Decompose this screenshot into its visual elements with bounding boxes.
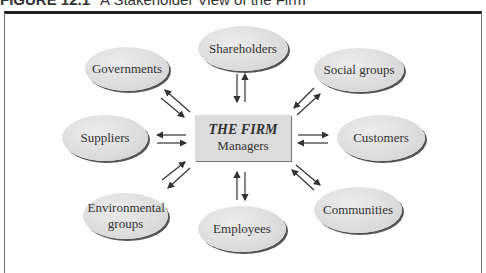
node-label: Environmental groups <box>88 200 164 231</box>
center-firm-box: THE FIRM Managers <box>195 115 291 161</box>
node-environmental-groups: Environmental groups <box>83 193 168 239</box>
node-label: Employees <box>213 221 271 237</box>
node-label: Customers <box>353 130 409 146</box>
node-suppliers: Suppliers <box>62 115 148 161</box>
node-label: Shareholders <box>209 41 277 57</box>
node-label: Suppliers <box>80 130 129 146</box>
firm-subtitle: Managers <box>217 138 268 154</box>
node-communities: Communities <box>314 187 402 233</box>
node-label: Communities <box>323 202 393 218</box>
node-label: Governments <box>92 61 162 77</box>
node-shareholders: Shareholders <box>198 26 288 71</box>
node-social-groups: Social groups <box>314 48 404 92</box>
node-employees: Employees <box>198 206 286 252</box>
node-label: Social groups <box>323 62 394 78</box>
node-customers: Customers <box>337 115 425 161</box>
node-governments: Governments <box>85 47 169 91</box>
firm-title: THE FIRM <box>209 122 278 138</box>
